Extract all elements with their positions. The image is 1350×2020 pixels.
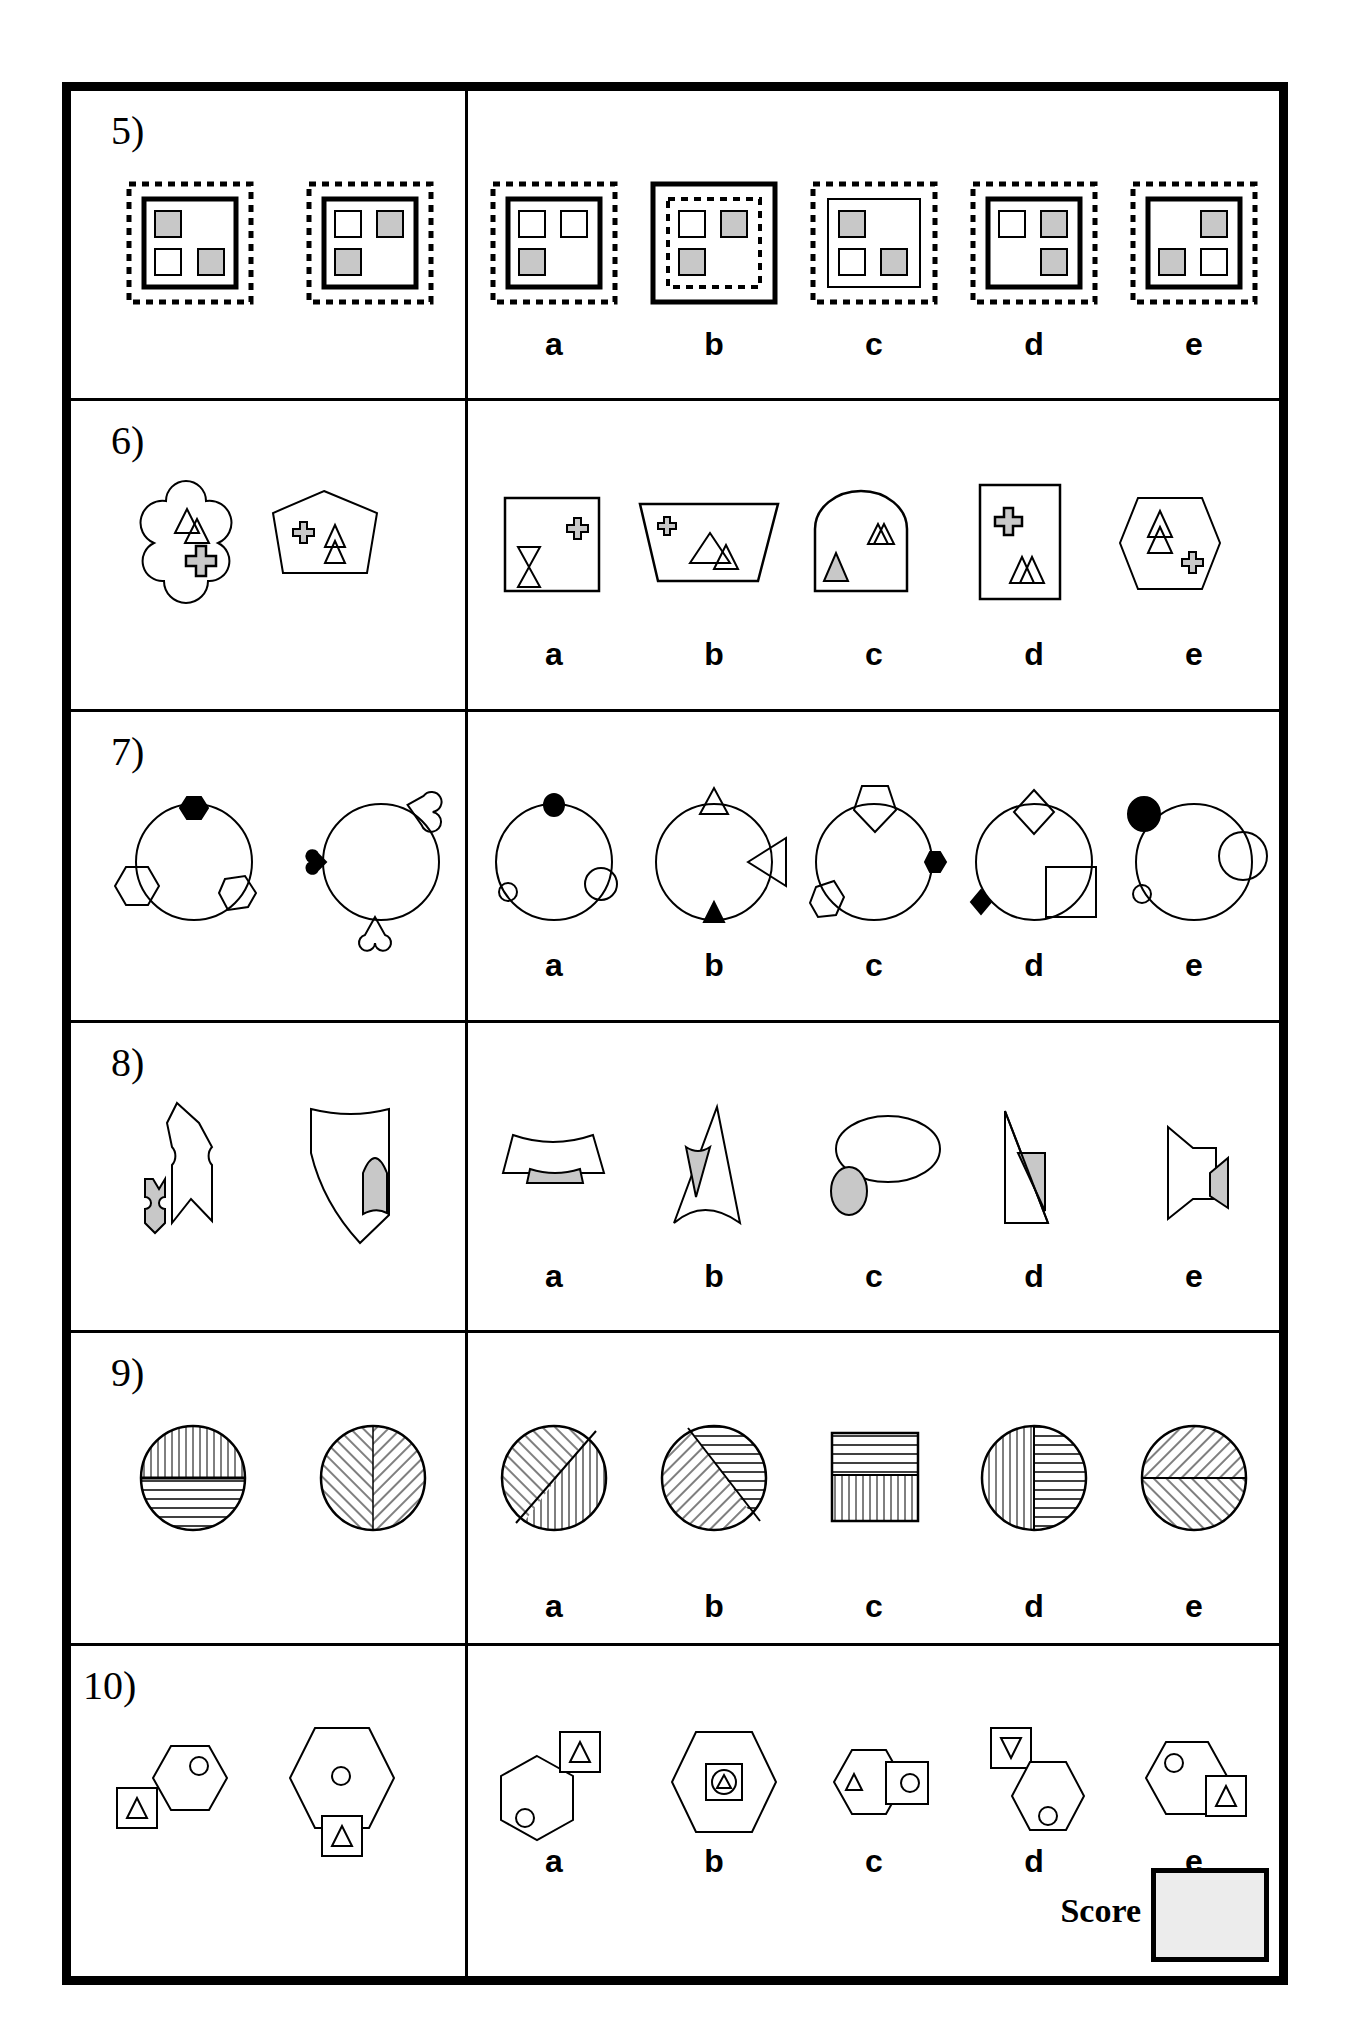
option-b-label[interactable]: b [694,1588,734,1625]
question-row-6: 6) [71,401,1279,712]
option-d-label[interactable]: d [1014,1258,1054,1295]
option-d-label[interactable]: d [1014,636,1054,673]
score-label: Score [1060,1892,1141,1930]
answer-cell: a b c d e [468,91,1279,398]
example-figures [71,1646,468,1976]
answer-cell: a b c d e [468,1023,1279,1330]
answer-cell: a b c d e [468,1333,1279,1643]
option-a-label[interactable]: a [534,1588,574,1625]
question-cell: 10) [71,1646,468,1976]
question-cell: 7) [71,712,468,1020]
option-c-label[interactable]: c [854,1588,894,1625]
option-b-label[interactable]: b [694,1258,734,1295]
option-e-label[interactable]: e [1174,636,1214,673]
question-row-10: 10) [71,1646,1279,1976]
question-cell: 5) [71,91,468,398]
option-c-label[interactable]: c [854,636,894,673]
option-a-figure [493,184,615,302]
question-row-8: 8) [71,1023,1279,1333]
question-cell: 6) [71,401,468,709]
option-e-label[interactable]: e [1174,1588,1214,1625]
option-b-label[interactable]: b [694,636,734,673]
question-cell: 8) [71,1023,468,1330]
option-b-label[interactable]: b [694,1843,734,1880]
option-d-label[interactable]: d [1014,947,1054,984]
option-a-label[interactable]: a [534,1843,574,1880]
option-e-label[interactable]: e [1174,947,1214,984]
worksheet-frame: 5) [62,82,1288,1985]
option-d-label[interactable]: d [1014,1588,1054,1625]
option-a-label[interactable]: a [534,326,574,363]
option-b-label[interactable]: b [694,326,734,363]
example-figures [71,91,468,401]
option-a-label[interactable]: a [534,636,574,673]
example-figures [71,1333,468,1646]
option-a-label[interactable]: a [534,947,574,984]
option-d-label[interactable]: d [1014,326,1054,363]
option-a-label[interactable]: a [534,1258,574,1295]
example-figures [71,712,468,1023]
option-c-label[interactable]: c [854,1843,894,1880]
score-input-box[interactable] [1151,1868,1269,1962]
question-row-9: 9) [71,1333,1279,1646]
option-c-label[interactable]: c [854,1258,894,1295]
option-b-label[interactable]: b [694,947,734,984]
question-row-7: 7) [71,712,1279,1023]
option-d-label[interactable]: d [1014,1843,1054,1880]
option-c-label[interactable]: c [854,326,894,363]
answer-cell: a b c d e [468,401,1279,709]
answer-cell: a b c d e [468,712,1279,1020]
option-e-label[interactable]: e [1174,326,1214,363]
question-row-5: 5) [71,91,1279,401]
question-cell: 9) [71,1333,468,1643]
example-figures [71,1023,468,1333]
option-e-label[interactable]: e [1174,1258,1214,1295]
example-figures [71,401,468,712]
answer-cell: a b c d e Score [468,1646,1279,1976]
option-c-label[interactable]: c [854,947,894,984]
